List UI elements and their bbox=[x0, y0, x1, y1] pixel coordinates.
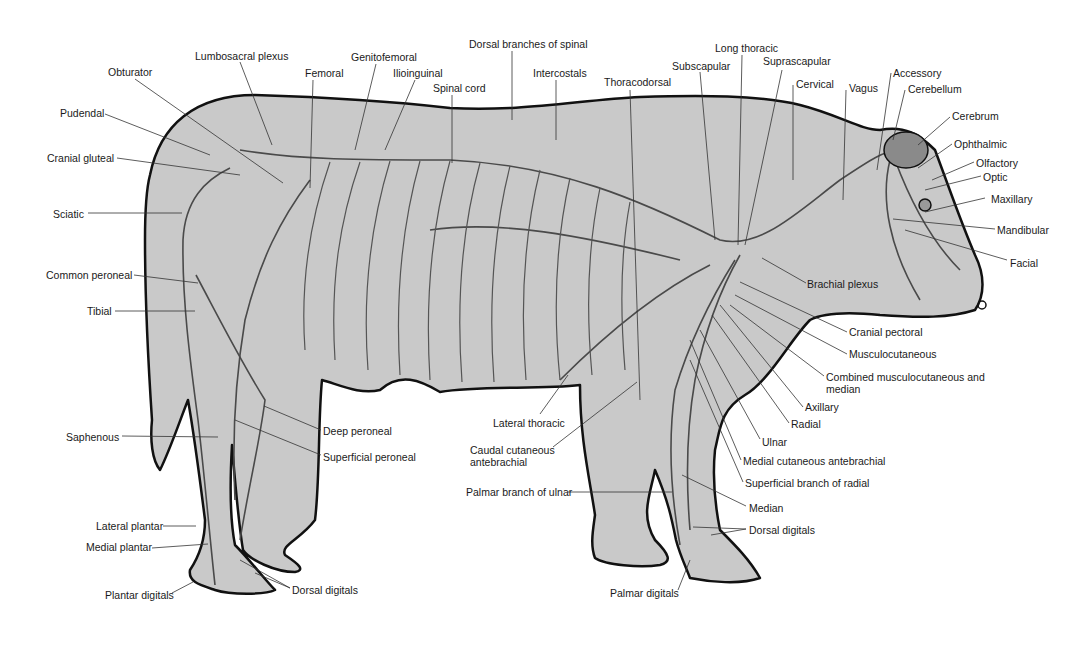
label-palmar-digitals: Palmar digitals bbox=[610, 587, 679, 599]
eye-ring bbox=[919, 199, 931, 211]
label-superficial-radial: Superficial branch of radial bbox=[745, 477, 869, 489]
label-long-thoracic: Long thoracic bbox=[715, 42, 778, 54]
label-musculocutaneous: Musculocutaneous bbox=[849, 348, 937, 360]
label-accessory: Accessory bbox=[893, 67, 941, 79]
label-dorsal-digitals-fore: Dorsal digitals bbox=[749, 524, 815, 536]
label-sciatic: Sciatic bbox=[53, 208, 84, 220]
label-medial-plantar: Medial plantar bbox=[86, 541, 152, 553]
label-plantar-digitals: Plantar digitals bbox=[105, 589, 174, 601]
label-obturator: Obturator bbox=[108, 66, 152, 78]
label-brachial-plexus: Brachial plexus bbox=[807, 278, 878, 290]
label-olfactory: Olfactory bbox=[976, 157, 1018, 169]
label-cranial-pectoral: Cranial pectoral bbox=[849, 326, 923, 338]
label-ilioinguinal: Ilioinguinal bbox=[393, 67, 443, 79]
leader-cerebrum bbox=[918, 117, 950, 145]
label-caudal-cutaneous-ante: Caudal cutaneous antebrachial bbox=[470, 444, 560, 468]
cow-nerve-diagram bbox=[0, 0, 1081, 647]
label-cervical: Cervical bbox=[796, 78, 834, 90]
label-tibial: Tibial bbox=[87, 305, 112, 317]
label-mandibular: Mandibular bbox=[997, 224, 1049, 236]
label-ulnar: Ulnar bbox=[762, 436, 787, 448]
label-cerebellum: Cerebellum bbox=[908, 83, 962, 95]
label-pudendal: Pudendal bbox=[60, 107, 104, 119]
label-superficial-peroneal: Superficial peroneal bbox=[323, 451, 416, 463]
label-suprascapular: Suprascapular bbox=[763, 55, 831, 67]
label-cranial-gluteal: Cranial gluteal bbox=[47, 152, 114, 164]
label-subscapular: Subscapular bbox=[672, 60, 730, 72]
label-medial-cutaneous-ante: Medial cutaneous antebrachial bbox=[743, 455, 885, 467]
label-intercostals: Intercostals bbox=[533, 67, 587, 79]
label-cerebrum: Cerebrum bbox=[952, 110, 999, 122]
leader-plantar-digitals bbox=[172, 582, 193, 593]
label-femoral: Femoral bbox=[305, 67, 344, 79]
label-optic: Optic bbox=[983, 171, 1008, 183]
label-lateral-thoracic: Lateral thoracic bbox=[493, 417, 565, 429]
label-palmar-branch-ulnar: Palmar branch of ulnar bbox=[466, 486, 572, 498]
label-dorsal-digitals-hind: Dorsal digitals bbox=[292, 584, 358, 596]
label-lateral-plantar: Lateral plantar bbox=[96, 520, 163, 532]
label-radial: Radial bbox=[791, 418, 821, 430]
label-common-peroneal: Common peroneal bbox=[46, 269, 132, 281]
label-vagus: Vagus bbox=[849, 82, 878, 94]
label-spinal-cord: Spinal cord bbox=[433, 82, 486, 94]
label-combined-musc-median: Combined musculocutaneous and median bbox=[826, 371, 1001, 395]
brain bbox=[884, 132, 928, 168]
label-maxillary: Maxillary bbox=[991, 193, 1032, 205]
label-thoracodorsal: Thoracodorsal bbox=[604, 76, 671, 88]
label-saphenous: Saphenous bbox=[66, 431, 119, 443]
label-axillary: Axillary bbox=[805, 401, 839, 413]
label-genitofemoral: Genitofemoral bbox=[351, 51, 417, 63]
label-dorsal-branches: Dorsal branches of spinal bbox=[469, 38, 587, 50]
label-facial: Facial bbox=[1010, 257, 1038, 269]
label-median: Median bbox=[749, 502, 783, 514]
label-deep-peroneal: Deep peroneal bbox=[323, 425, 392, 437]
label-lumbosacral-plexus: Lumbosacral plexus bbox=[195, 50, 288, 62]
label-ophthalmic: Ophthalmic bbox=[954, 138, 1007, 150]
